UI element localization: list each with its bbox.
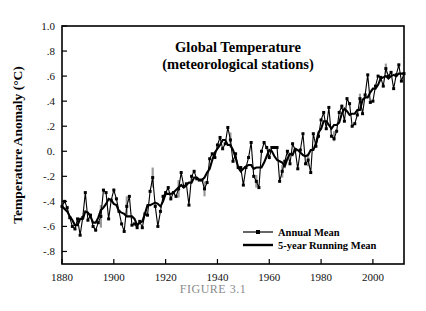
data-point bbox=[333, 137, 336, 140]
y-tick-label: .8 bbox=[47, 45, 56, 57]
x-tick-label: 1920 bbox=[155, 271, 178, 283]
chart-subtitle: (meteorological stations) bbox=[162, 56, 314, 73]
data-point bbox=[92, 225, 95, 228]
data-point bbox=[66, 206, 69, 209]
data-point bbox=[361, 112, 364, 115]
data-point bbox=[382, 85, 385, 88]
y-tick-label: 1.0 bbox=[41, 20, 55, 32]
data-point bbox=[105, 191, 108, 194]
data-point bbox=[377, 75, 380, 78]
y-tick-label: .6 bbox=[47, 70, 56, 82]
data-point bbox=[286, 150, 289, 153]
y-tick-label: -.6 bbox=[43, 220, 55, 232]
data-point bbox=[348, 102, 351, 105]
data-point bbox=[169, 197, 172, 200]
y-axis-label: Temperature Anomaly (°C) bbox=[10, 66, 25, 224]
data-point bbox=[358, 97, 361, 100]
data-point bbox=[322, 111, 325, 114]
data-point bbox=[128, 195, 131, 198]
data-point bbox=[255, 180, 258, 183]
data-point bbox=[278, 180, 281, 183]
data-point bbox=[330, 135, 333, 138]
data-point bbox=[146, 214, 149, 217]
data-point bbox=[384, 67, 387, 70]
chart-title: Global Temperature bbox=[175, 39, 301, 55]
data-point bbox=[250, 141, 253, 144]
data-point bbox=[219, 136, 222, 139]
data-point bbox=[400, 80, 403, 83]
data-point bbox=[335, 130, 338, 133]
data-point bbox=[397, 63, 400, 66]
data-point bbox=[270, 146, 273, 149]
data-point bbox=[263, 141, 266, 144]
data-point bbox=[309, 171, 312, 174]
data-point bbox=[193, 170, 196, 173]
data-point bbox=[252, 175, 255, 178]
data-point bbox=[260, 150, 263, 153]
data-point bbox=[115, 197, 118, 200]
data-point bbox=[154, 205, 157, 208]
data-point bbox=[167, 186, 170, 189]
data-point bbox=[208, 157, 211, 160]
data-point bbox=[281, 170, 284, 173]
y-tick-label: -.4 bbox=[43, 195, 55, 207]
x-tick-label: 1880 bbox=[51, 271, 74, 283]
data-point bbox=[180, 171, 183, 174]
data-point bbox=[190, 175, 193, 178]
y-tick-label: -.2 bbox=[43, 170, 55, 182]
data-point bbox=[187, 204, 190, 207]
data-point bbox=[307, 159, 310, 162]
data-point bbox=[247, 156, 250, 159]
data-point bbox=[353, 122, 356, 125]
data-point bbox=[301, 132, 304, 135]
data-point bbox=[107, 217, 110, 220]
data-point bbox=[73, 227, 76, 230]
data-point bbox=[63, 200, 66, 203]
data-point bbox=[156, 225, 159, 228]
data-point bbox=[364, 93, 367, 96]
data-point bbox=[257, 186, 260, 189]
data-point bbox=[229, 138, 232, 141]
figure-container: -.8-.6-.4-.20..2.4.6.81.0188019001920194… bbox=[0, 0, 426, 311]
data-point bbox=[175, 195, 178, 198]
data-point bbox=[79, 234, 82, 237]
data-point bbox=[120, 222, 123, 225]
data-point bbox=[296, 167, 299, 170]
data-point bbox=[338, 111, 341, 114]
legend-label-2: 5-year Running Mean bbox=[278, 240, 377, 251]
data-point bbox=[371, 100, 374, 103]
data-point bbox=[71, 225, 74, 228]
data-point bbox=[159, 210, 162, 213]
data-point bbox=[390, 71, 393, 74]
data-point bbox=[86, 219, 89, 222]
data-point bbox=[102, 189, 105, 192]
data-point bbox=[151, 176, 154, 179]
data-point bbox=[130, 224, 133, 227]
data-point bbox=[141, 226, 144, 229]
data-point bbox=[84, 191, 87, 194]
data-point bbox=[325, 127, 328, 130]
global-temperature-chart: -.8-.6-.4-.20..2.4.6.81.0188019001920194… bbox=[0, 0, 426, 311]
data-point bbox=[125, 205, 128, 208]
data-point bbox=[289, 162, 292, 165]
series-running-mean bbox=[62, 74, 404, 226]
data-point bbox=[203, 187, 206, 190]
data-point bbox=[320, 118, 323, 121]
data-point bbox=[265, 146, 268, 149]
x-tick-label: 1980 bbox=[310, 271, 333, 283]
data-point bbox=[312, 132, 315, 135]
y-tick-label: 0. bbox=[47, 145, 56, 157]
data-point bbox=[242, 184, 245, 187]
data-point bbox=[149, 190, 152, 193]
y-tick-label: .2 bbox=[47, 120, 55, 132]
x-tick-label: 1960 bbox=[258, 271, 281, 283]
data-point bbox=[351, 125, 354, 128]
data-point bbox=[356, 113, 359, 116]
legend-label-1: Annual Mean bbox=[278, 227, 340, 238]
y-tick-label: -.8 bbox=[43, 245, 55, 257]
data-point bbox=[304, 162, 307, 165]
data-point bbox=[392, 87, 395, 90]
data-point bbox=[123, 230, 126, 233]
y-tick-label: .4 bbox=[47, 95, 56, 107]
data-point bbox=[346, 97, 349, 100]
